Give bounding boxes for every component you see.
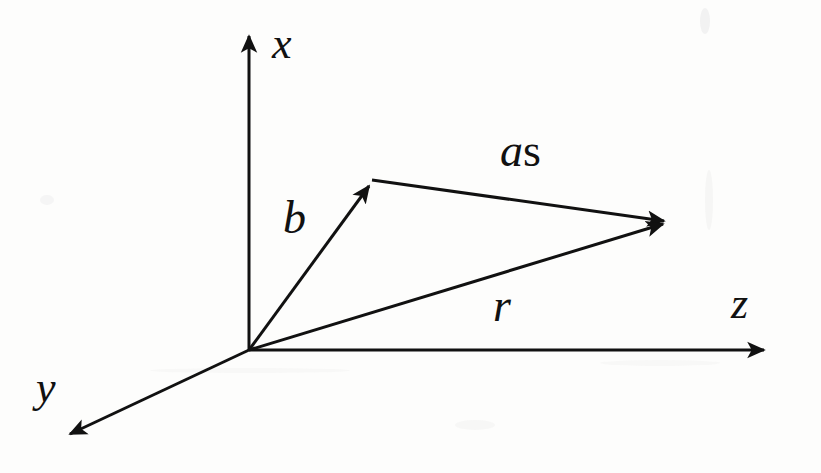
- vector-label-as-roman-part: s: [523, 125, 541, 176]
- vector-diagram-svg: [0, 0, 821, 473]
- as-vector-line: [372, 180, 664, 221]
- axis-label-y: y: [36, 366, 56, 410]
- vector-label-r: r: [493, 283, 511, 329]
- axis-label-x: x: [272, 22, 292, 66]
- axis-label-z: z: [731, 282, 748, 326]
- y-axis-line: [70, 350, 249, 434]
- vector-label-as: as: [500, 128, 541, 174]
- b-vector-line: [249, 186, 369, 350]
- figure-canvas: x y z b as r: [0, 0, 821, 473]
- r-vector-line: [249, 224, 663, 350]
- vector-label-b: b: [283, 195, 306, 241]
- vector-label-as-italic-part: a: [500, 125, 523, 176]
